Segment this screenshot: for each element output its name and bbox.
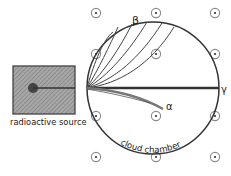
out-of-page-field-icon — [210, 152, 219, 161]
out-of-page-field-icon — [210, 8, 219, 17]
out-of-page-field-icon — [151, 8, 160, 17]
out-of-page-field-icon — [91, 8, 100, 17]
beta-label: β — [132, 14, 139, 27]
beta-track — [87, 27, 118, 88]
chamber-label: cloud chamber — [119, 137, 182, 155]
alpha-label: α — [166, 101, 173, 112]
chamber-label-text: cloud chamber — [119, 137, 182, 155]
out-of-page-field-icon — [151, 111, 160, 120]
gamma-label: γ — [221, 84, 227, 95]
alpha-track-edge — [87, 89, 150, 103]
diagram-canvas: β γ α radioactive source cloud chamber — [0, 0, 231, 176]
source-label: radioactive source — [10, 117, 87, 127]
radioactive-source — [13, 66, 75, 114]
particle-tracks — [87, 22, 219, 109]
source-box — [13, 66, 75, 114]
out-of-page-field-icon — [91, 152, 100, 161]
